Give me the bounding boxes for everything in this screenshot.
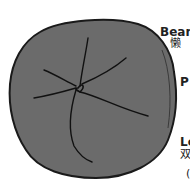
bean-body: [10, 20, 176, 178]
label-paren: (: [186, 168, 190, 179]
label-lo: Lo: [180, 136, 190, 148]
label-lo-zh: 双: [180, 149, 190, 160]
label-bean-zh: 懒: [170, 38, 181, 49]
label-p: P: [180, 76, 189, 88]
